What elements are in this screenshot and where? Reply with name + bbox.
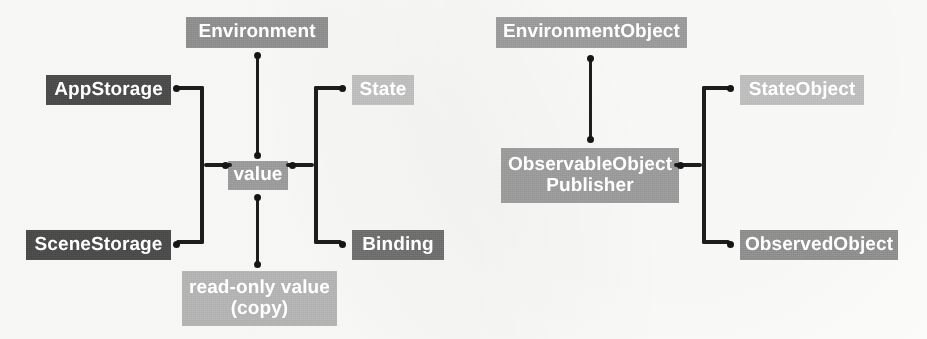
connector-environmentobject-to-publisher bbox=[589, 58, 592, 142]
node-observableobject-publisher-label: ObservableObject Publisher bbox=[508, 155, 672, 196]
bracket-storage-arm-top bbox=[176, 86, 204, 90]
node-environmentobject: EnvironmentObject bbox=[496, 17, 687, 48]
bracket-storage-arm-bottom bbox=[176, 240, 204, 244]
node-observableobject-publisher: ObservableObject Publisher bbox=[501, 148, 679, 203]
connector-environment-to-value bbox=[256, 55, 259, 157]
node-binding: Binding bbox=[352, 230, 444, 260]
node-appstorage: AppStorage bbox=[46, 75, 171, 105]
bracket-publisher-arm-bottom bbox=[702, 240, 730, 244]
bracket-state-spine bbox=[314, 86, 318, 244]
node-value-label: value bbox=[233, 165, 282, 186]
connector-environment-endpoint-bottom bbox=[254, 152, 261, 159]
node-stateobject-label: StateObject bbox=[749, 80, 856, 101]
connector-environment-endpoint-top bbox=[254, 52, 261, 59]
node-environmentobject-label: EnvironmentObject bbox=[503, 22, 680, 43]
bracket-storage-dot-middle bbox=[222, 162, 229, 169]
connector-readonly-endpoint-top bbox=[254, 194, 261, 201]
node-scenestorage: SceneStorage bbox=[26, 230, 171, 260]
connector-environmentobject-endpoint-top bbox=[587, 55, 594, 62]
connector-value-to-read-only-value bbox=[256, 197, 259, 267]
node-observedobject-label: ObservedObject bbox=[745, 235, 893, 256]
node-read-only-value: read-only value (copy) bbox=[182, 271, 337, 326]
bracket-value-to-state-binding bbox=[314, 86, 342, 244]
connector-readonly-endpoint-bottom bbox=[254, 261, 261, 268]
node-scenestorage-label: SceneStorage bbox=[35, 235, 163, 256]
node-environment-label: Environment bbox=[198, 22, 315, 43]
bracket-publisher-spine bbox=[702, 86, 706, 244]
bracket-publisher-to-objects bbox=[702, 86, 730, 244]
bracket-storage-dot-top bbox=[173, 85, 180, 92]
connector-environmentobject-endpoint-bottom bbox=[587, 136, 594, 143]
bracket-value-to-storage bbox=[176, 86, 204, 244]
bracket-state-arm-top bbox=[314, 86, 342, 90]
node-state: State bbox=[352, 75, 414, 105]
bracket-state-arm-bottom bbox=[314, 240, 342, 244]
node-binding-label: Binding bbox=[362, 235, 433, 256]
bracket-state-dot-bottom bbox=[339, 241, 346, 248]
bracket-publisher-dot-bottom bbox=[727, 241, 734, 248]
bracket-storage-dot-bottom bbox=[173, 241, 180, 248]
bracket-state-dot-middle bbox=[289, 162, 296, 169]
node-value: value bbox=[228, 161, 288, 190]
bracket-publisher-arm-top bbox=[702, 86, 730, 90]
node-stateobject: StateObject bbox=[740, 75, 864, 105]
node-environment: Environment bbox=[186, 17, 328, 48]
diagram-canvas: Environment AppStorage State value Scene… bbox=[0, 0, 927, 339]
bracket-publisher-dot-top bbox=[727, 85, 734, 92]
node-appstorage-label: AppStorage bbox=[54, 80, 163, 101]
bracket-state-dot-top bbox=[339, 85, 346, 92]
node-read-only-value-label: read-only value (copy) bbox=[189, 278, 330, 319]
node-observedobject: ObservedObject bbox=[740, 230, 898, 260]
bracket-publisher-dot-middle bbox=[677, 162, 684, 169]
node-state-label: State bbox=[360, 80, 407, 101]
